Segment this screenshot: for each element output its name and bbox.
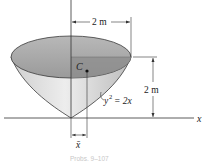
top-radius-label: 2 m bbox=[92, 17, 107, 27]
figure-caption: Probs. 9–107 bbox=[70, 155, 109, 162]
x-axis-label: x bbox=[196, 113, 202, 124]
curve-equation-exponent: 2 bbox=[109, 93, 112, 100]
centroid-label: C bbox=[76, 61, 83, 72]
height-label: 2 m bbox=[144, 85, 159, 95]
curve-equation-rhs: = 2x bbox=[114, 96, 133, 106]
diagram-canvas: x 2 m 2 m C y 2 = 2x x̄ Probs. 9–107 bbox=[0, 0, 205, 163]
xbar-label: x̄ bbox=[75, 140, 81, 150]
